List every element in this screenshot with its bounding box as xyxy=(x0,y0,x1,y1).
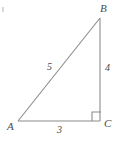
side-label-vertical-leg: 4 xyxy=(105,63,110,73)
vertex-label-b: B xyxy=(100,3,107,14)
vertex-label-a: A xyxy=(7,121,14,132)
side-label-hypotenuse: 5 xyxy=(47,62,52,72)
vertex-label-c: C xyxy=(104,118,111,129)
right-triangle-figure: A B C 5 4 3 xyxy=(0,0,123,143)
hypotenuse-line xyxy=(18,18,100,121)
side-label-base-leg: 3 xyxy=(57,125,62,135)
scan-artifact-speck xyxy=(2,7,4,12)
